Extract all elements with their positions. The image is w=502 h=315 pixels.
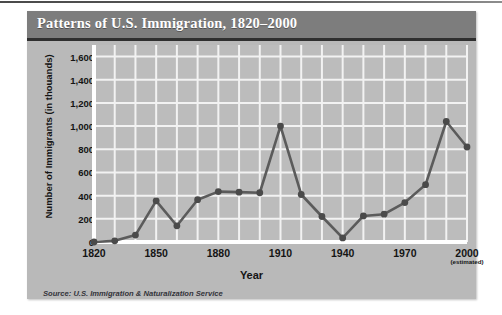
x-tick-label: 1910 [269,247,292,259]
source-note: Source: U.S. Immigration & Naturalizatio… [43,289,223,298]
page-rule [0,1,502,3]
x-tick-label: 1850 [144,247,167,259]
x-axis-tick-labels: 1820185018801910194019702000(estimated) [27,247,476,287]
x-tick-label: 2000(estimated) [450,247,483,265]
x-tick-label: 1970 [393,247,416,259]
x-tick-label: 1820 [82,247,105,259]
page-title: Patterns of U.S. Immigration, 1820–2000 [37,15,297,32]
chart-title-bar: Patterns of U.S. Immigration, 1820–2000 [27,11,476,41]
chart-figure: Patterns of U.S. Immigration, 1820–2000 … [27,11,476,299]
line-chart-plot [27,41,476,266]
x-tick-label: 1880 [207,247,230,259]
x-tick-label: 1940 [331,247,354,259]
x-tick-annotation: (estimated) [450,258,483,265]
plot-area-wrapper: Number of Immigrants (in thouands) 02004… [27,41,476,299]
x-axis-title: Year [27,269,476,281]
